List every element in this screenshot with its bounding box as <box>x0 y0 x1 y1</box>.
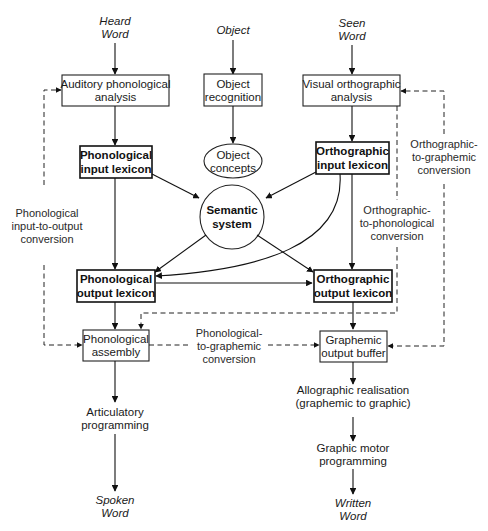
spoken-word-output: Spoken Word <box>95 494 134 519</box>
svg-text:Word: Word <box>101 507 129 519</box>
orthographic-input-lexicon-box: Orthographic input lexicon <box>316 142 390 174</box>
svg-text:Graphemic: Graphemic <box>325 334 381 346</box>
svg-text:recognition: recognition <box>205 91 261 103</box>
svg-text:Object: Object <box>216 149 250 161</box>
svg-text:programming: programming <box>81 419 149 431</box>
svg-text:Word: Word <box>101 28 129 40</box>
svg-text:Object: Object <box>216 78 250 90</box>
svg-text:Visual orthographic: Visual orthographic <box>302 78 400 90</box>
phon-in-out-conversion-label: Phonological input-to-output conversion <box>12 207 83 245</box>
svg-text:Orthographic: Orthographic <box>316 145 389 157</box>
svg-text:Written: Written <box>335 497 371 509</box>
svg-text:Auditory phonological: Auditory phonological <box>61 78 171 90</box>
svg-text:Seen: Seen <box>339 17 366 29</box>
phonological-output-lexicon-box: Phonological output lexicon <box>77 270 156 302</box>
semantic-to-phon-output-arrow <box>155 235 206 272</box>
object-input: Object <box>216 24 250 36</box>
svg-text:to-graphemic: to-graphemic <box>197 340 262 352</box>
svg-text:conversion: conversion <box>370 230 423 242</box>
graphic-motor-programming-label: Graphic motor programming <box>317 442 390 467</box>
phon-to-graph-conversion-label: Phonological- to-graphemic conversion <box>196 327 263 365</box>
phon-input-to-semantic-arrow <box>152 174 199 198</box>
svg-text:(graphemic to graphic): (graphemic to graphic) <box>295 397 410 409</box>
graphemic-output-buffer-box: Graphemic output buffer <box>320 331 387 362</box>
svg-text:input-to-output: input-to-output <box>12 220 83 232</box>
svg-text:conversion: conversion <box>417 164 470 176</box>
auditory-phonological-analysis-box: Auditory phonological analysis <box>61 75 171 106</box>
orth-input-to-semantic-arrow <box>266 172 316 198</box>
seen-word-input: Seen Word <box>338 17 366 42</box>
articulatory-programming-label: Articulatory programming <box>81 406 149 431</box>
phon-in-out-route-upper <box>44 90 61 185</box>
written-word-output: Written Word <box>335 497 371 522</box>
svg-text:Word: Word <box>339 510 367 522</box>
svg-text:Phonological-: Phonological- <box>196 327 263 339</box>
svg-text:conversion: conversion <box>202 353 255 365</box>
semantic-system-circle: Semantic system <box>200 185 264 249</box>
orth-to-phon-conversion-label: Orthographic- to-phonological conversion <box>360 204 435 242</box>
svg-text:Allographic realisation: Allographic realisation <box>297 384 410 396</box>
cognitive-neuropsychological-language-model: Heard Word Object Seen Word Auditory pho… <box>0 0 488 531</box>
svg-text:programming: programming <box>319 455 387 467</box>
phonological-assembly-box: Phonological assembly <box>83 330 149 361</box>
svg-text:concepts: concepts <box>210 162 256 174</box>
object-recognition-box: Object recognition <box>204 74 262 106</box>
svg-text:Orthographic-: Orthographic- <box>410 138 478 150</box>
svg-text:Phonological: Phonological <box>16 207 79 219</box>
svg-text:Semantic: Semantic <box>206 204 258 216</box>
svg-text:assembly: assembly <box>92 346 141 358</box>
visual-orthographic-analysis-box: Visual orthographic analysis <box>302 75 400 106</box>
svg-text:input lexicon: input lexicon <box>81 163 152 175</box>
svg-text:analysis: analysis <box>95 91 137 103</box>
phonological-input-lexicon-box: Phonological input lexicon <box>80 146 152 178</box>
heard-word-input: Heard Word <box>99 15 131 40</box>
svg-text:Phonological: Phonological <box>83 333 149 345</box>
svg-text:system: system <box>212 218 252 230</box>
object-concepts-ellipse: Object concepts <box>204 144 262 178</box>
allographic-realisation-label: Allographic realisation (graphemic to gr… <box>295 384 410 409</box>
svg-text:to-phonological: to-phonological <box>360 217 435 229</box>
svg-text:Spoken: Spoken <box>95 494 134 506</box>
svg-text:Word: Word <box>338 30 366 42</box>
svg-text:Graphic motor: Graphic motor <box>317 442 390 454</box>
svg-text:Orthographic-: Orthographic- <box>363 204 431 216</box>
svg-text:to-graphemic: to-graphemic <box>412 151 477 163</box>
svg-text:Phonological: Phonological <box>80 273 152 285</box>
orth-to-graph-route-upper <box>401 91 444 134</box>
svg-text:output lexicon: output lexicon <box>77 287 156 299</box>
svg-text:output lexicon: output lexicon <box>314 287 393 299</box>
svg-text:Articulatory: Articulatory <box>86 406 144 418</box>
svg-text:output buffer: output buffer <box>321 347 386 359</box>
orthographic-output-lexicon-box: Orthographic output lexicon <box>314 270 393 302</box>
svg-text:analysis: analysis <box>331 91 373 103</box>
svg-text:input lexicon: input lexicon <box>317 159 388 171</box>
svg-text:conversion: conversion <box>20 233 73 245</box>
svg-text:Phonological: Phonological <box>80 149 152 161</box>
orth-to-graph-conversion-label: Orthographic- to-graphemic conversion <box>410 138 478 176</box>
svg-text:Heard: Heard <box>99 15 131 27</box>
svg-text:Orthographic: Orthographic <box>317 273 390 285</box>
svg-text:Object: Object <box>216 24 250 36</box>
